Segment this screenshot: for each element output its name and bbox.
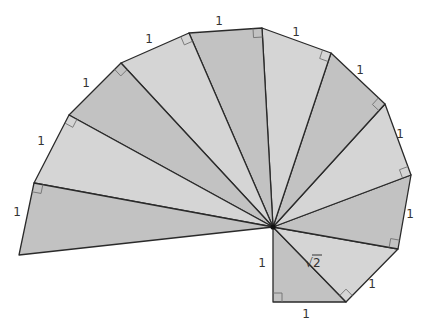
label-leg-vertical: 1 <box>258 256 266 270</box>
label-side-6: 1 <box>292 25 300 39</box>
label-side-4: 1 <box>396 127 404 141</box>
label-side-2: 1 <box>368 277 376 291</box>
label-side-5: 1 <box>356 63 364 77</box>
label-hypotenuse-sqrt2: √2 <box>305 256 320 270</box>
label-side-10: 1 <box>37 134 45 148</box>
center-point <box>270 224 275 229</box>
label-side-7: 1 <box>215 14 223 28</box>
spiral-svg: 11√21111111111 <box>0 0 430 333</box>
spiral-diagram: 11√21111111111 <box>0 0 430 333</box>
label-side-8: 1 <box>145 32 153 46</box>
label-leg-bottom: 1 <box>302 307 310 321</box>
label-side-3: 1 <box>406 207 414 221</box>
triangles-group <box>19 28 411 302</box>
label-side-11: 1 <box>13 205 21 219</box>
label-side-9: 1 <box>82 76 90 90</box>
